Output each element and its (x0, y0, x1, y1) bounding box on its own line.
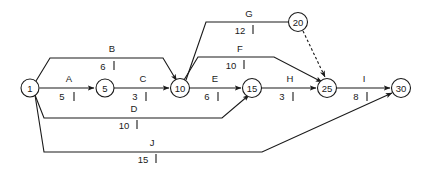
node-10-label: 10 (175, 83, 186, 94)
edge-A-duration-label: 5 (59, 91, 64, 102)
edge-B-activity-label: B (109, 43, 115, 54)
edge-D: D 10 (35, 95, 249, 131)
node-1-label: 1 (27, 83, 32, 94)
node-5[interactable]: 5 (96, 79, 114, 97)
node-30[interactable]: 30 (392, 79, 411, 98)
node-25[interactable]: 25 (318, 79, 337, 98)
activity-network-diagram: A 5 B 6 C 3 D 10 E 6 (0, 0, 428, 172)
edge-I-activity-label: I (363, 73, 366, 84)
edge-C: C 3 (114, 73, 169, 102)
edge-I-duration-label: 8 (353, 91, 358, 102)
edge-G-activity-label: G (245, 8, 252, 19)
edge-H: H 3 (262, 73, 317, 102)
node-25-label: 25 (322, 83, 333, 94)
edge-D-line (35, 95, 249, 118)
node-15[interactable]: 15 (243, 79, 262, 98)
edge-dummy-20-25-line (303, 31, 325, 77)
edge-B-duration-label: 6 (100, 61, 105, 72)
edge-dummy-20-25 (303, 31, 325, 77)
node-20[interactable]: 20 (289, 13, 308, 32)
edge-F-duration-label: 10 (226, 60, 237, 71)
edge-F-activity-label: F (237, 43, 243, 54)
edge-G-duration-label: 12 (235, 25, 246, 36)
edge-H-duration-label: 3 (279, 91, 284, 102)
edge-E-duration-label: 6 (204, 91, 209, 102)
node-10[interactable]: 10 (171, 79, 190, 98)
node-20-label: 20 (293, 17, 304, 28)
edge-B: B 6 (36, 43, 177, 81)
node-30-label: 30 (396, 83, 407, 94)
edge-C-activity-label: C (140, 73, 147, 84)
edge-D-activity-label: D (131, 103, 138, 114)
node-5-label: 5 (102, 83, 107, 94)
network-canvas: A 5 B 6 C 3 D 10 E 6 (0, 0, 428, 172)
edge-H-activity-label: H (287, 73, 294, 84)
edge-J: J 15 (35, 93, 392, 165)
edge-A-activity-label: A (66, 73, 73, 84)
edge-A: A 5 (40, 73, 95, 102)
edge-F: F 10 (184, 43, 322, 82)
edge-E-activity-label: E (212, 73, 218, 84)
edge-E: E 6 (190, 73, 242, 102)
edge-B-line (36, 58, 177, 81)
edge-J-line (35, 93, 392, 152)
edge-J-duration-label: 15 (138, 154, 149, 165)
node-15-label: 15 (247, 83, 258, 94)
edge-J-activity-label: J (150, 137, 155, 148)
edge-D-duration-label: 10 (119, 120, 130, 131)
edge-C-duration-label: 3 (132, 91, 137, 102)
node-1[interactable]: 1 (21, 79, 39, 97)
